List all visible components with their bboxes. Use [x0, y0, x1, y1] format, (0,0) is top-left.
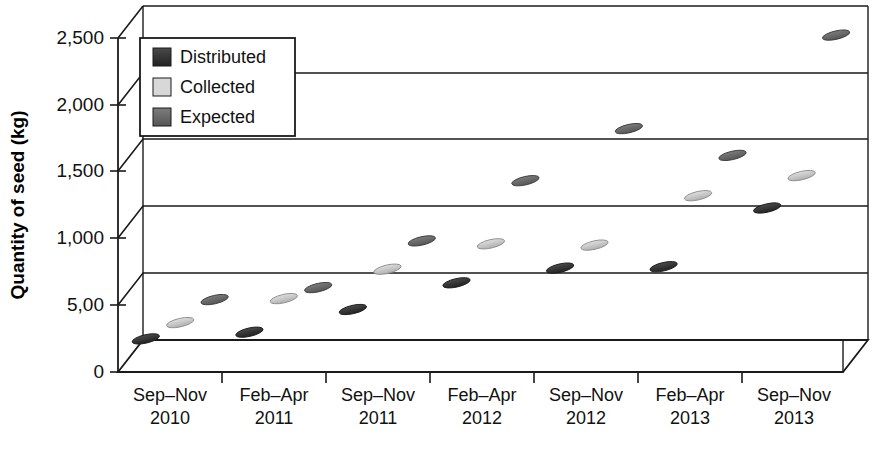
scatter-chart: 2,500 2,000 1,500 1,000 5,00 0 Quantity …: [0, 0, 872, 453]
data-point-distributed-2: [338, 302, 367, 316]
legend-label-distributed: Distributed: [180, 47, 266, 67]
y-axis-title: Quantity of seed (kg): [7, 111, 28, 300]
legend-swatch-distributed: [153, 48, 171, 66]
data-point-collected-4: [580, 238, 609, 252]
marker-ellipse: [649, 259, 678, 273]
chart-container: 2,500 2,000 1,500 1,000 5,00 0 Quantity …: [0, 0, 872, 453]
x-label-4-period: Sep–Nov: [549, 385, 623, 405]
x-label-6-year: 2013: [774, 408, 814, 428]
x-label-5-period: Feb–Apr: [655, 385, 724, 405]
marker-ellipse: [407, 234, 436, 248]
x-label-2-period: Sep–Nov: [341, 385, 415, 405]
marker-ellipse: [235, 325, 264, 339]
x-label-4-year: 2012: [566, 408, 606, 428]
x-label-1-year: 2011: [255, 408, 294, 428]
data-point-distributed-5: [649, 259, 678, 273]
grid-line-1500: [118, 139, 868, 171]
x-label-3-period: Feb–Apr: [447, 385, 516, 405]
y-tick-label-500: 5,00: [67, 294, 104, 315]
chart-legend: Distributed Collected Expected: [140, 38, 295, 136]
x-tick-marks: [222, 372, 742, 383]
marker-ellipse: [373, 262, 402, 276]
legend-label-collected: Collected: [180, 77, 255, 97]
marker-ellipse: [166, 315, 195, 329]
marker-ellipse: [684, 188, 713, 202]
marker-ellipse: [822, 28, 851, 42]
marker-ellipse: [338, 302, 367, 316]
x-label-1-period: Feb–Apr: [239, 385, 308, 405]
grid-line-500: [118, 273, 868, 305]
data-point-distributed-0: [131, 332, 160, 346]
data-point-expected-6: [822, 28, 851, 42]
x-label-0-year: 2010: [150, 408, 190, 428]
x-label-5-year: 2013: [670, 408, 710, 428]
data-point-expected-3: [511, 173, 540, 187]
data-point-collected-0: [166, 315, 195, 329]
data-point-expected-1: [304, 280, 333, 294]
data-point-expected-5: [718, 148, 747, 162]
data-point-distributed-1: [235, 325, 264, 339]
y-tick-label-1500: 1,500: [56, 160, 104, 181]
x-label-0-period: Sep–Nov: [133, 385, 207, 405]
data-point-expected-0: [200, 292, 229, 306]
y-tick-label-2000: 2,000: [56, 94, 104, 115]
data-point-expected-4: [614, 121, 643, 135]
marker-ellipse: [511, 173, 540, 187]
data-point-collected-2: [373, 262, 402, 276]
legend-swatch-expected: [153, 108, 171, 126]
floor-plane: [118, 340, 868, 372]
marker-ellipse: [787, 168, 816, 182]
x-label-6-period: Sep–Nov: [757, 385, 831, 405]
marker-ellipse: [718, 148, 747, 162]
marker-ellipse: [614, 121, 643, 135]
marker-ellipse: [269, 291, 298, 305]
data-point-expected-2: [407, 234, 436, 248]
legend-label-expected: Expected: [180, 107, 255, 127]
x-label-2-year: 2011: [359, 408, 398, 428]
y-tick-labels: 2,500 2,000 1,500 1,000 5,00 0: [56, 27, 104, 382]
marker-ellipse: [304, 280, 333, 294]
data-point-collected-1: [269, 291, 298, 305]
x-axis-labels: Sep–Nov 2010 Feb–Apr 2011 Sep–Nov 2011 F…: [133, 385, 831, 428]
legend-swatch-collected: [153, 78, 171, 96]
data-point-collected-6: [787, 168, 816, 182]
marker-ellipse: [442, 276, 471, 290]
marker-ellipse: [200, 292, 229, 306]
marker-ellipse: [476, 237, 505, 251]
data-point-collected-3: [476, 237, 505, 251]
data-point-collected-5: [684, 188, 713, 202]
marker-ellipse: [580, 238, 609, 252]
data-point-distributed-6: [753, 201, 782, 215]
x-label-3-year: 2012: [462, 408, 502, 428]
y-tick-label-0: 0: [93, 361, 104, 382]
marker-ellipse: [131, 332, 160, 346]
y-tick-label-1000: 1,000: [56, 227, 104, 248]
marker-ellipse: [753, 201, 782, 215]
y-tick-label-2500: 2,500: [56, 27, 104, 48]
top-left-depth-edge: [118, 6, 143, 38]
data-point-distributed-3: [442, 276, 471, 290]
